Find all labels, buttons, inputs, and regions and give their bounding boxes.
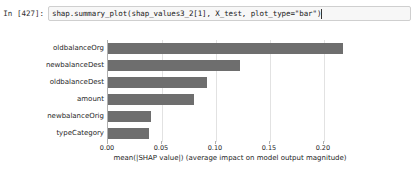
x-tick-mark-2	[215, 141, 216, 144]
notebook-input-cell[interactable]: In [427]: shap.summary_plot(shap_values3…	[0, 6, 417, 28]
bar-newbalanceOrig	[108, 111, 151, 122]
x-tick-label-0.05: 0.05	[154, 144, 168, 152]
bar-slot	[108, 74, 359, 91]
x-tick-label-0.15: 0.15	[262, 144, 276, 152]
x-tick-label-0.10: 0.10	[208, 144, 222, 152]
plot-area	[107, 40, 359, 142]
y-tick-label-oldbalanceDest: oldbalanceDest	[50, 74, 104, 91]
code-input-box[interactable]: shap.summary_plot(shap_values3_2[1], X_t…	[48, 6, 411, 21]
bar-oldbalanceOrg	[108, 43, 343, 54]
y-tick-label-typeCategory: typeCategory	[56, 125, 104, 142]
bar-slot	[108, 57, 359, 74]
x-tick-label-0.00: 0.00	[100, 144, 114, 152]
bar-typeCategory	[108, 128, 149, 139]
notebook-screenshot: In [427]: shap.summary_plot(shap_values3…	[0, 0, 417, 184]
bar-slot	[108, 108, 359, 125]
shap-summary-bar-chart: oldbalanceOrgnewbalanceDestoldbalanceDes…	[50, 32, 410, 180]
y-axis-tick-labels: oldbalanceOrgnewbalanceDestoldbalanceDes…	[50, 40, 104, 142]
bar-slot	[108, 91, 359, 108]
code-text: shap.summary_plot(shap_values3_2[1], X_t…	[52, 7, 321, 20]
y-tick-label-amount: amount	[77, 91, 104, 108]
x-tick-label-0.20: 0.20	[316, 144, 330, 152]
bar-amount	[108, 94, 194, 105]
x-tick-mark-3	[269, 141, 270, 144]
cell-execution-prompt: In [427]:	[0, 6, 48, 21]
x-axis-title: mean(|SHAP value|) (average impact on mo…	[50, 154, 410, 162]
y-tick-label-oldbalanceOrg: oldbalanceOrg	[53, 40, 104, 57]
y-tick-label-newbalanceDest: newbalanceDest	[46, 57, 104, 74]
x-tick-mark-0	[107, 141, 108, 144]
bar-newbalanceDest	[108, 60, 240, 71]
y-tick-label-newbalanceOrig: newbalanceOrig	[47, 108, 104, 125]
x-tick-mark-1	[161, 141, 162, 144]
bar-oldbalanceDest	[108, 77, 207, 88]
bar-slot	[108, 40, 359, 57]
text-caret	[321, 9, 322, 19]
bar-slot	[108, 125, 359, 142]
x-tick-mark-4	[323, 141, 324, 144]
